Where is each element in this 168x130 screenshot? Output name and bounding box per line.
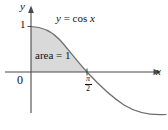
y-axis-label: y [20, 1, 25, 12]
y-tick-label-one: 1 [20, 19, 26, 30]
equation-equals-sign: = [61, 12, 73, 24]
equation-function-name: cos [73, 12, 88, 24]
x-tick-label-pi-over-2: π 2 [82, 75, 94, 94]
x-axis-label: x [156, 66, 161, 77]
y-axis-arrowhead [28, 6, 34, 14]
pi-numerator: π [82, 75, 94, 83]
two-denominator: 2 [82, 85, 94, 93]
origin-label: 0 [17, 74, 23, 86]
curve-equation-label: y = cos x [56, 13, 95, 24]
equation-argument: x [87, 12, 95, 24]
area-annotation-label: area = 1 [35, 50, 71, 61]
cosine-area-figure: y x 1 0 π 2 y = cos x area = 1 [0, 0, 168, 130]
